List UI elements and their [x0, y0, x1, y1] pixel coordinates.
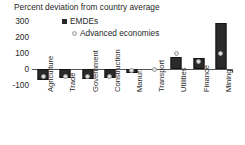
x-tick-manuf: Manuf.	[121, 92, 143, 144]
x-tick-construction: Construction	[99, 92, 121, 144]
bar-emdes	[215, 23, 226, 69]
x-tick-label: Construction	[114, 49, 122, 92]
y-tick-label-300: 300	[15, 17, 29, 25]
x-axis-labels: AgricultureTradeGovernmentConstructionMa…	[32, 92, 232, 145]
dot-advanced-economies	[63, 74, 68, 79]
dot-advanced-economies	[129, 68, 134, 73]
x-tick-label: Trade	[70, 72, 78, 92]
x-tick-government: Government	[76, 92, 98, 144]
y-axis: 300 200 100 0 -100	[0, 0, 29, 145]
x-tick-label: Government	[92, 50, 100, 92]
y-tick-label-100: 100	[15, 49, 29, 57]
x-tick-label: Transport	[158, 60, 166, 92]
x-tick-label: Agriculture	[47, 56, 55, 92]
dot-advanced-economies	[174, 51, 179, 56]
chart-title: Percent deviation from country average	[14, 2, 160, 12]
y-tick-label-200: 200	[15, 33, 29, 41]
x-tick-trade: Trade	[54, 92, 76, 144]
dot-advanced-economies	[107, 74, 112, 79]
dot-advanced-economies	[41, 74, 46, 79]
x-tick-utilities: Utilities	[165, 92, 187, 144]
x-tick-label: Finance	[203, 65, 211, 92]
y-tick-label-0: 0	[24, 65, 29, 73]
x-tick-transport: Transport	[143, 92, 165, 144]
x-tick-label: Manuf.	[136, 69, 144, 92]
x-tick-agriculture: Agriculture	[32, 92, 54, 144]
x-tick-finance: Finance	[188, 92, 210, 144]
dot-advanced-economies	[152, 67, 157, 72]
x-tick-mining: Mining	[210, 92, 232, 144]
x-tick-label: Utilities	[181, 68, 189, 92]
y-tick-label-minus-100: -100	[12, 81, 29, 89]
chart-figure: Percent deviation from country average 3…	[0, 0, 245, 145]
x-tick-label: Mining	[225, 70, 233, 92]
